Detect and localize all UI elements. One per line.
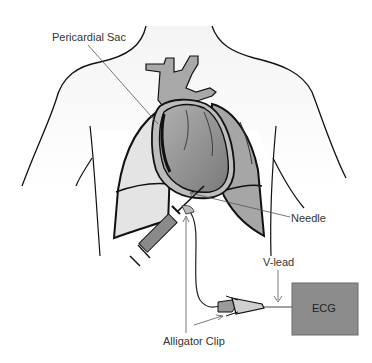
pericardiocentesis-diagram: Pericardial Sac Needle V-lead Alligator … bbox=[0, 0, 372, 363]
label-pericardial-sac: Pericardial Sac bbox=[52, 32, 126, 43]
lead-wire bbox=[184, 208, 220, 307]
alligator-clip-leader-right bbox=[194, 316, 222, 325]
left-arm-line bbox=[90, 126, 100, 256]
alligator-clip bbox=[218, 296, 264, 316]
label-ecg: ECG bbox=[312, 303, 336, 314]
label-needle: Needle bbox=[291, 213, 326, 224]
label-v-lead: V-lead bbox=[263, 257, 294, 268]
label-alligator-clip: Alligator Clip bbox=[163, 336, 225, 347]
